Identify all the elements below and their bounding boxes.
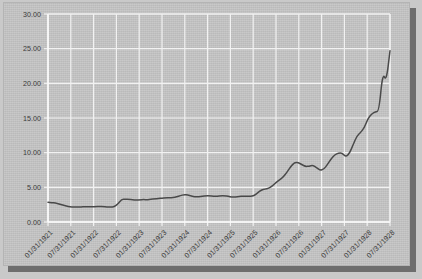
series-line-index [48, 51, 390, 207]
y-tick-label: 20.00 [23, 79, 41, 88]
y-tick-label: 15.00 [23, 114, 41, 123]
chart-panel-root: 0.005.0010.0015.0020.0025.0030.0001/31/1… [0, 0, 422, 279]
y-tick-label: 5.00 [27, 183, 41, 192]
y-tick-label: 25.00 [23, 44, 41, 53]
line-chart: 0.005.0010.0015.0020.0025.0030.0001/31/1… [0, 0, 422, 279]
y-tick-label: 0.00 [27, 218, 41, 227]
y-tick-label: 30.00 [23, 10, 41, 19]
y-tick-label: 10.00 [23, 148, 41, 157]
